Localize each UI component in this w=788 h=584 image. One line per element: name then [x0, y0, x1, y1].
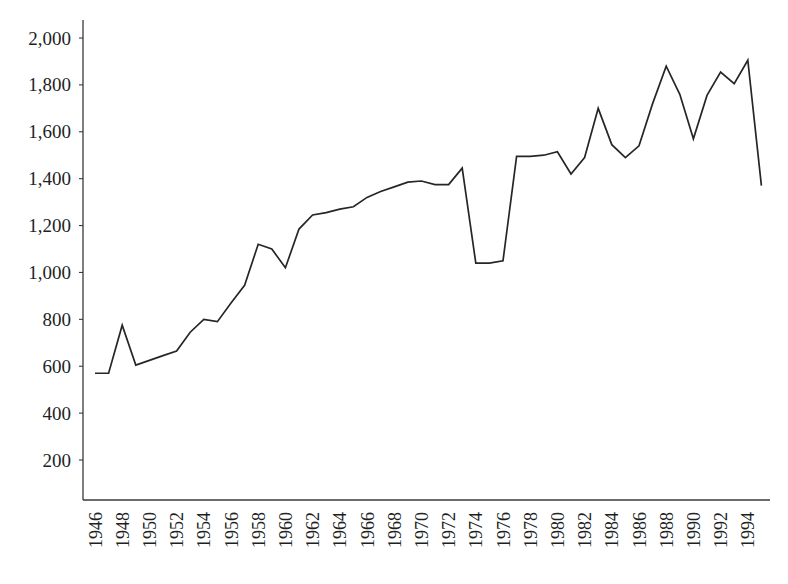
- x-axis-tick-label: 1946: [86, 512, 106, 548]
- y-axis-tick-label: 800: [43, 309, 72, 330]
- y-axis-tick-label: 1,200: [28, 215, 71, 236]
- x-axis-tick-label: 1974: [466, 512, 486, 548]
- y-axis-tick-label: 2,000: [28, 28, 71, 49]
- x-axis-tick-label: 1962: [303, 512, 323, 548]
- x-axis-tick-labels: 1946194819501952195419561958196019621964…: [86, 512, 759, 548]
- data-series-line: [95, 60, 761, 373]
- x-axis-tick-label: 1964: [330, 512, 350, 548]
- x-axis-tick-label: 1988: [657, 512, 677, 548]
- y-axis-tick-label: 600: [43, 356, 72, 377]
- x-axis-tick-label: 1968: [385, 512, 405, 548]
- y-axis-tick-label: 1,600: [28, 121, 71, 142]
- y-axis-tick-labels: 2004006008001,0001,2001,4001,6001,8002,0…: [28, 28, 71, 471]
- x-axis-tick-label: 1984: [602, 512, 622, 548]
- y-axis-tick-label: 200: [43, 450, 72, 471]
- x-axis-tick-label: 1982: [575, 512, 595, 548]
- y-axis-tick-label: 400: [43, 403, 72, 424]
- x-axis-tick-label: 1956: [222, 512, 242, 548]
- y-axis-tick-label: 1,000: [28, 262, 71, 283]
- x-axis-tick-label: 1958: [249, 512, 269, 548]
- x-axis-tick-label: 1994: [738, 512, 758, 548]
- x-axis-tick-label: 1980: [548, 512, 568, 548]
- line-chart: 2004006008001,0001,2001,4001,6001,8002,0…: [0, 0, 788, 584]
- x-axis-tick-label: 1976: [494, 512, 514, 548]
- x-axis-tick-label: 1950: [140, 512, 160, 548]
- x-axis-tick-label: 1966: [358, 512, 378, 548]
- x-axis-tick-label: 1992: [711, 512, 731, 548]
- x-axis-tick-label: 1970: [412, 512, 432, 548]
- y-axis-tick-label: 1,400: [28, 168, 71, 189]
- x-axis-tick-label: 1986: [630, 512, 650, 548]
- chart-container: 2004006008001,0001,2001,4001,6001,8002,0…: [0, 0, 788, 584]
- x-axis-tick-label: 1952: [167, 512, 187, 548]
- x-axis-tick-label: 1990: [684, 512, 704, 548]
- y-axis-tick-label: 1,800: [28, 74, 71, 95]
- x-axis-tick-label: 1954: [194, 512, 214, 548]
- x-axis-tick-label: 1972: [439, 512, 459, 548]
- x-axis-tick-label: 1978: [521, 512, 541, 548]
- x-axis-tick-label: 1948: [113, 512, 133, 548]
- x-axis-tick-label: 1960: [276, 512, 296, 548]
